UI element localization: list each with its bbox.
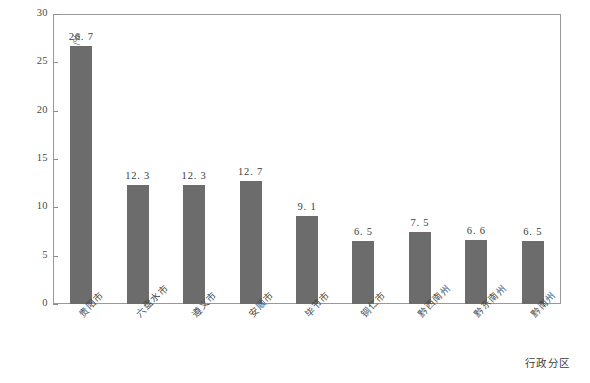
y-tick-label: 10	[10, 200, 48, 211]
bar-group: 12. 7	[240, 14, 262, 304]
bar-value-label: 7. 5	[410, 217, 429, 228]
bar-value-label: 26. 7	[69, 31, 94, 42]
bar-group: 12. 3	[183, 14, 205, 304]
bar	[127, 185, 149, 304]
bar-value-label: 9. 1	[298, 201, 317, 212]
bar-group: 6. 6	[465, 14, 487, 304]
bar	[240, 181, 262, 304]
y-tick-mark	[53, 304, 58, 305]
bar	[70, 46, 92, 304]
y-tick-label: 30	[10, 7, 48, 18]
bars-layer: 26. 712. 312. 312. 79. 16. 57. 56. 66. 5	[53, 14, 561, 304]
bar-group: 6. 5	[522, 14, 544, 304]
bar	[296, 216, 318, 304]
bar-value-label: 12. 3	[125, 170, 150, 181]
bar-group: 6. 5	[352, 14, 374, 304]
y-tick-label: 20	[10, 104, 48, 115]
bar-chart: 水资源开发利用率/% 051015202530 26. 712. 312. 31…	[0, 0, 590, 383]
bar-value-label: 6. 5	[354, 226, 373, 237]
bar	[409, 232, 431, 305]
bar-value-label: 12. 7	[238, 166, 263, 177]
y-tick-label: 25	[10, 55, 48, 66]
bar	[183, 185, 205, 304]
y-tick-label: 5	[10, 249, 48, 260]
bar-group: 9. 1	[296, 14, 318, 304]
bar-value-label: 6. 5	[523, 226, 542, 237]
y-tick-label: 15	[10, 152, 48, 163]
bar-value-label: 12. 3	[182, 170, 207, 181]
y-tick-label: 0	[10, 297, 48, 308]
x-axis-title: 行政分区	[525, 355, 570, 370]
bar-group: 12. 3	[127, 14, 149, 304]
bar-value-label: 6. 6	[467, 225, 486, 236]
bar-group: 7. 5	[409, 14, 431, 304]
bar-group: 26. 7	[70, 14, 92, 304]
